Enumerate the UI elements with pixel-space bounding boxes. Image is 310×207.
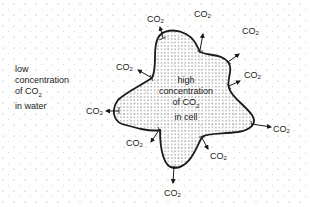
outside-concentration-label: low concentration of CO2 in water (15, 64, 69, 112)
co2-label-bottom: CO2 (164, 188, 181, 200)
co2-text: CO (164, 188, 178, 198)
co2-text: CO (194, 9, 208, 19)
outside-label-line-3: of CO2 (15, 86, 69, 101)
co2-label-left: CO2 (86, 106, 103, 118)
co2-label-top: CO2 (194, 9, 211, 21)
outside-label-line-2: concentration (15, 75, 69, 86)
co2-text: CO (244, 70, 258, 80)
co2-text: CO (126, 138, 140, 148)
co2-text: CO (273, 124, 287, 134)
co2-subscript: 2 (161, 18, 164, 24)
co2-subscript: 2 (287, 128, 290, 134)
co2-text: CO (86, 106, 100, 116)
co2-subscript: 2 (208, 13, 211, 19)
outside-label-subscript: 2 (39, 92, 42, 98)
co2-label-bottom-left: CO2 (126, 138, 143, 150)
co2-subscript: 2 (130, 66, 133, 72)
outside-label-line-1: low (15, 64, 69, 75)
inside-label-line-2: concentration (146, 86, 226, 97)
co2-label-right: CO2 (244, 70, 261, 82)
co2-text: CO (242, 26, 256, 36)
co2-label-bottom-right: CO2 (210, 151, 227, 163)
inside-label-line-1: high (146, 75, 226, 86)
co2-text: CO (147, 14, 161, 24)
co2-subscript: 2 (224, 155, 227, 161)
co2-subscript: 2 (256, 30, 259, 36)
inside-label-line-3: of CO2 (146, 97, 226, 112)
inside-concentration-label: high concentration of CO2 in cell (146, 75, 226, 123)
outside-label-line-4: in water (15, 101, 69, 112)
co2-subscript: 2 (178, 192, 181, 198)
co2-subscript: 2 (100, 110, 103, 116)
inside-label-line-4: in cell (146, 112, 226, 123)
inside-label-text: of CO (173, 97, 197, 107)
co2-label-upper-left: CO2 (116, 62, 133, 74)
co2-subscript: 2 (258, 74, 261, 80)
co2-subscript: 2 (140, 142, 143, 148)
outside-label-text: of CO (15, 86, 39, 96)
co2-text: CO (116, 62, 130, 72)
co2-label-top-left: CO2 (147, 14, 164, 26)
inside-label-subscript: 2 (196, 103, 199, 109)
co2-label-lower-right: CO2 (273, 124, 290, 136)
co2-label-upper-right: CO2 (242, 26, 259, 38)
co2-text: CO (210, 151, 224, 161)
